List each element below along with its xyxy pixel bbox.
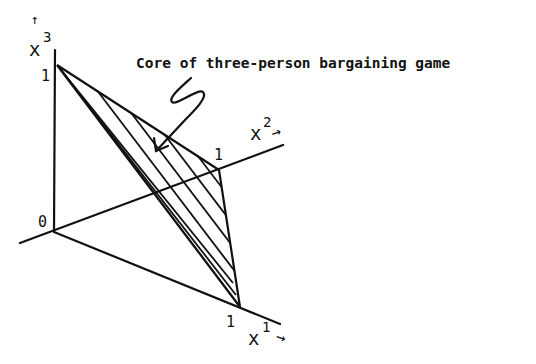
- x3-axis-label: x: [29, 38, 40, 60]
- x2-axis-label: x: [250, 122, 261, 144]
- core-diagram: Core of three-person bargaining game 0 ↑…: [0, 0, 536, 364]
- x3-axis-sup: 3: [43, 29, 51, 45]
- x1-unit-label: 1: [226, 313, 235, 331]
- x1-axis-sup: 1: [262, 319, 270, 335]
- pointer-squiggle: [157, 78, 204, 150]
- caption: Core of three-person bargaining game: [136, 55, 451, 71]
- x3-axis: [54, 50, 55, 232]
- x1-arrow-icon: →: [273, 327, 289, 348]
- x2-arrow-icon: →: [268, 121, 284, 142]
- x1-axis: [54, 232, 280, 324]
- x2-unit-label: 1: [214, 146, 223, 164]
- x2-axis: [20, 145, 283, 243]
- origin-label: 0: [38, 213, 47, 231]
- x3-arrow-icon: ↑: [31, 12, 39, 27]
- x1-axis-label: x: [248, 327, 259, 349]
- x3-unit-label: 1: [41, 67, 50, 85]
